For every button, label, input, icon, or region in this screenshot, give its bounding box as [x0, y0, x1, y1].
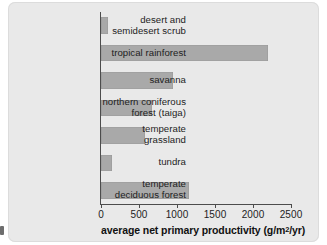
category-label-line: northern coniferous: [102, 96, 186, 107]
bar: [101, 127, 145, 144]
x-tick-mark: [177, 204, 178, 208]
x-tick-mark: [215, 204, 216, 208]
category-label: temperatedeciduous forest: [115, 178, 186, 200]
category-label-line: desert and: [112, 14, 186, 25]
category-label-line: tropical rainforest: [111, 47, 186, 58]
category-label: tropical rainforest: [111, 47, 186, 58]
category-label: northern coniferousforest (taiga): [102, 96, 186, 118]
category-label-line: deciduous forest: [115, 189, 186, 200]
x-tick-mark: [253, 204, 254, 208]
category-label: savanna: [149, 74, 186, 85]
bar-row: temperategrassland: [101, 127, 291, 144]
x-axis-title-main: average net primary productivity (g/m: [101, 224, 285, 236]
x-tick-label: 500: [131, 209, 148, 220]
bar-row: northern coniferousforest (taiga): [101, 100, 291, 117]
category-label-line: grassland: [142, 134, 186, 145]
category-label: temperategrassland: [142, 123, 186, 145]
bar: [101, 17, 108, 34]
bar-row: savanna: [101, 72, 291, 89]
category-label: desert andsemidesert scrub: [112, 14, 186, 36]
x-tick-mark: [139, 204, 140, 208]
category-label-line: forest (taiga): [102, 107, 186, 118]
bar: [101, 155, 112, 172]
category-label-line: temperate: [115, 178, 186, 189]
category-label-line: temperate: [142, 123, 186, 134]
x-tick-label: 2000: [242, 209, 265, 220]
x-tick-mark: [291, 204, 292, 208]
bar-row: tundra: [101, 155, 291, 172]
x-axis-line: [100, 204, 292, 205]
chart-figure: 05001000150020002500 desert andsemideser…: [0, 0, 327, 245]
category-label-line: tundra: [158, 156, 186, 167]
x-tick-label: 1500: [204, 209, 227, 220]
category-label-line: savanna: [149, 74, 186, 85]
category-label: tundra: [158, 156, 186, 167]
bar-row: desert andsemidesert scrub: [101, 17, 291, 34]
x-tick-label: 1000: [166, 209, 189, 220]
page-edge-mark: [0, 226, 4, 235]
bar-row: temperatedeciduous forest: [101, 182, 291, 199]
category-label-line: semidesert scrub: [112, 25, 186, 36]
x-axis-title: average net primary productivity (g/m2/y…: [101, 224, 301, 236]
x-axis-title-tail: /yr): [289, 224, 305, 236]
plot-area: 05001000150020002500 desert andsemideser…: [101, 12, 291, 204]
x-tick-label: 0: [98, 209, 104, 220]
x-tick-label: 2500: [280, 209, 303, 220]
bar-row: tropical rainforest: [101, 45, 291, 62]
x-tick-mark: [101, 204, 102, 208]
